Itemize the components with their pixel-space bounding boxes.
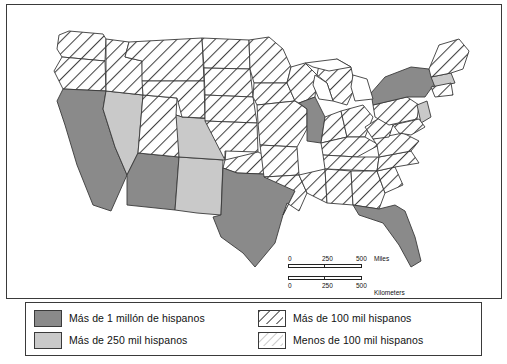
state-new-mexico	[175, 157, 223, 215]
scale-km-end: 500	[356, 282, 367, 289]
map-legend: Más de 1 millón de hispanos Más de	[25, 302, 482, 356]
legend-label-more-than-1-million: Más de 1 millón de hispanos	[69, 312, 205, 324]
state-south-dakota	[204, 68, 253, 97]
legend-swatch-fine-hatched	[258, 332, 286, 349]
state-minnesota	[249, 37, 291, 83]
scale-km-start: 0	[288, 282, 292, 289]
legend-label-more-than-250-mil: Más de 250 mil hispanos	[69, 334, 187, 346]
state-arizona	[127, 153, 179, 210]
legend-item-more-than-1-million: Más de 1 millón de hispanos	[34, 308, 250, 328]
state-alabama	[325, 169, 353, 205]
legend-item-less-than-100-mil: Menos de 100 mil hispanos	[258, 330, 474, 350]
scale-miles-end: 500	[356, 255, 367, 262]
state-arkansas	[260, 145, 299, 177]
scale-miles-unit: Miles	[374, 255, 389, 262]
scale-km-bar	[288, 276, 362, 280]
map-figure: 0 250 500 Miles 0 250 500 Kilometers	[0, 0, 507, 364]
state-utah	[138, 95, 182, 157]
legend-label-more-than-100-mil: Más de 100 mil hispanos	[293, 312, 411, 324]
scale-miles-start: 0	[288, 255, 292, 262]
legend-swatch-solid-dark	[34, 310, 62, 327]
state-northern-new-england	[429, 39, 469, 77]
scale-bar: 0 250 500 Miles 0 250 500 Kilometers	[288, 255, 408, 291]
scale-km-unit: Kilometers	[374, 289, 405, 296]
legend-item-more-than-250-mil: Más de 250 mil hispanos	[34, 330, 250, 350]
state-oregon	[54, 57, 106, 91]
united-states-map	[7, 5, 501, 298]
scale-km-mid: 250	[322, 282, 333, 289]
map-frame: 0 250 500 Miles 0 250 500 Kilometers	[6, 4, 502, 299]
state-nebraska	[205, 95, 257, 123]
legend-item-more-than-100-mil: Más de 100 mil hispanos	[258, 308, 474, 328]
state-tennessee	[323, 155, 379, 171]
legend-swatch-hatched	[258, 310, 286, 327]
lake-huron-erie	[351, 75, 373, 101]
legend-label-less-than-100-mil: Menos de 100 mil hispanos	[293, 334, 423, 346]
scale-miles-bar	[288, 264, 362, 268]
scale-miles-mid: 250	[322, 255, 333, 262]
legend-swatch-solid-light	[34, 332, 62, 349]
state-missouri	[257, 101, 307, 147]
state-north-dakota	[202, 38, 250, 69]
state-washington	[57, 31, 106, 61]
